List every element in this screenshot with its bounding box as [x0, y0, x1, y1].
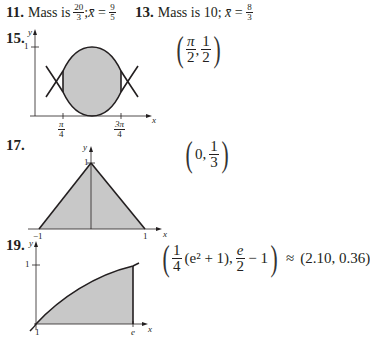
graph-19	[30, 241, 148, 331]
left-paren: (	[162, 240, 169, 276]
right-paren: )	[270, 240, 277, 276]
x-axis-label: x	[152, 115, 156, 125]
x-tick-1: 1	[35, 327, 40, 337]
y-tick-label: 1	[25, 259, 30, 269]
approx-value: (2.10, 0.36)	[300, 250, 370, 267]
centroid-x: 0	[195, 146, 203, 163]
centroid-y: 1 2	[201, 34, 211, 65]
x-tick-e: e	[131, 327, 135, 337]
graph-15	[30, 29, 152, 119]
x-axis-arrow-icon	[156, 227, 162, 231]
centroid-x-expr: (e² + 1)	[185, 250, 230, 267]
y-axis-label: y	[28, 27, 32, 37]
answer-17: ( 0 , 1 3 )	[183, 136, 231, 172]
centroid-x: π 2	[186, 34, 196, 65]
problem-17-number: 17.	[6, 137, 25, 154]
centroid-y-fraction: e 2	[236, 243, 245, 274]
y-tick-label: 1	[24, 41, 29, 51]
left-paren: (	[176, 31, 183, 67]
centroid-y: 1 3	[209, 139, 219, 170]
y-axis-arrow-icon	[33, 29, 37, 35]
y-axis-label: y	[83, 142, 87, 152]
x-tick-pi-over-4: π 4	[58, 120, 65, 139]
y-tick-label: 1	[84, 157, 89, 167]
answer-19: ( 1 4 (e² + 1) , e 2 − 1 ) ≈ (2.10, 0.36…	[160, 240, 370, 276]
right-paren: )	[221, 136, 228, 172]
right-paren: )	[213, 31, 220, 67]
y-axis-arrow-icon	[34, 241, 38, 247]
left-paren: (	[185, 136, 192, 172]
graph-17	[28, 146, 162, 231]
y-axis-label: y	[29, 238, 33, 248]
x-tick-3pi-over-4: 3π 4	[114, 120, 125, 139]
answer-15: ( π 2 , 1 2 )	[174, 31, 223, 67]
shaded-region	[36, 266, 133, 324]
x-tick-1: 1	[143, 231, 148, 241]
y-axis-arrow-icon	[89, 146, 93, 152]
approx-symbol: ≈	[286, 250, 294, 267]
x-axis-label: x	[148, 324, 152, 334]
problem-19-number: 19.	[6, 237, 25, 254]
centroid-x-coefficient: 1 4	[172, 243, 182, 274]
x-tick-neg1: −1	[33, 231, 43, 241]
shaded-triangle	[39, 163, 145, 229]
